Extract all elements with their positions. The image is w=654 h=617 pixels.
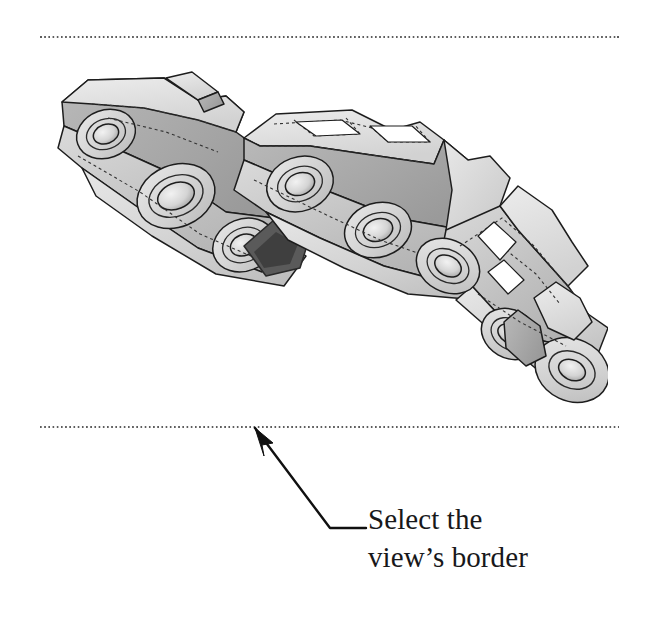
arrow-head-icon	[255, 428, 273, 456]
callout-text: Select the view’s border	[368, 500, 618, 576]
chain-assembly-isometric-model	[48, 60, 608, 410]
callout-text-line2: view’s border	[368, 538, 618, 576]
view-border-top-edge[interactable]	[40, 36, 619, 38]
arrow-leader-line	[230, 415, 390, 545]
page-canvas: Select the view’s border	[0, 0, 654, 617]
callout-text-line1: Select the	[368, 500, 618, 538]
view-border-right-edge[interactable]	[617, 36, 619, 428]
view-border-left-edge[interactable]	[40, 36, 42, 428]
